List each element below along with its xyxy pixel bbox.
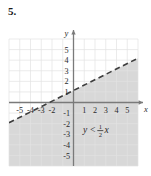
x-tick-label: 2: [93, 106, 97, 115]
x-axis-label: x: [143, 104, 148, 114]
figure-page: 5.: [0, 0, 151, 176]
fraction-denominator: 2: [99, 131, 102, 138]
x-tick-label: -4: [27, 106, 34, 115]
fraction-numerator: 1: [99, 123, 102, 130]
x-tick-label: 3: [104, 106, 108, 115]
y-tick-label: -2: [63, 120, 70, 129]
inequality-lhs: y: [82, 125, 88, 135]
x-tick-label: -2: [49, 106, 56, 115]
y-tick-label: 2: [64, 77, 68, 86]
x-tick-label: 1: [82, 106, 86, 115]
y-tick-label: 1: [64, 88, 68, 97]
x-tick-label: 4: [114, 106, 118, 115]
coordinate-plane-figure: y x -5 -4 -3 -2 1 2 3 4 5 5 4 3 2 1 -: [0, 26, 151, 176]
y-axis-arrow-icon: [71, 30, 75, 34]
y-tick-label: -4: [63, 141, 70, 150]
x-tick-label: -5: [16, 106, 23, 115]
y-tick-label: -5: [63, 152, 70, 161]
x-axis-arrow-icon: [139, 100, 143, 104]
y-tick-label: 4: [64, 56, 68, 65]
x-tick-label: -3: [38, 106, 45, 115]
inequality-operator: <: [90, 125, 96, 135]
inequality-rhs: x: [104, 125, 110, 135]
y-axis-label: y: [64, 28, 69, 38]
y-tick-label: 3: [64, 67, 68, 76]
y-tick-label: 5: [64, 46, 68, 55]
y-tick-label: -1: [63, 109, 70, 118]
y-tick-label: -3: [63, 130, 70, 139]
problem-number: 5.: [8, 5, 16, 17]
x-tick-label: 5: [125, 106, 129, 115]
